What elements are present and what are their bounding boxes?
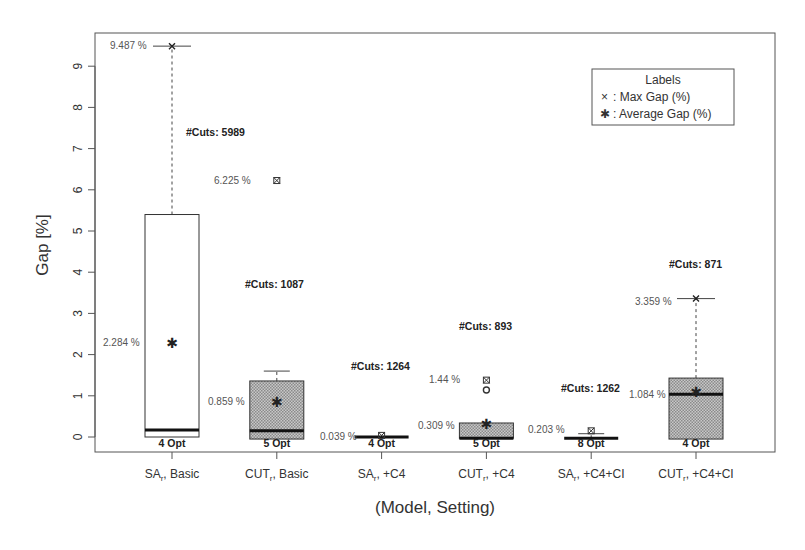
y-tick-label: 2 <box>71 351 85 358</box>
max-gap-label: 6.225 % <box>214 175 251 186</box>
average-gap-label: 0.859 % <box>208 396 245 407</box>
average-gap-icon: ✱ <box>481 416 493 432</box>
y-tick-label: 6 <box>71 186 85 193</box>
box-plot-chart: 0123456789 SAr, BasicCUTr, BasicSAr, +C4… <box>0 0 805 550</box>
average-gap-icon: ✱ <box>166 335 178 351</box>
box-2: ✱6.225 %0.859 %#Cuts: 10875 Opt <box>208 175 304 449</box>
box-5: 0.203 %#Cuts: 12628 Opt <box>528 382 620 449</box>
max-gap-icon <box>483 377 489 383</box>
optimal-count-label: 5 Opt <box>473 437 500 449</box>
x-tick-label: SAr, +C4 <box>358 467 406 483</box>
legend-max-gap-icon: × <box>601 90 608 104</box>
optimal-count-label: 5 Opt <box>263 437 290 449</box>
y-tick-label: 9 <box>71 63 85 70</box>
legend-title: Labels <box>645 73 680 87</box>
y-tick-label: 7 <box>71 145 85 152</box>
legend-max-gap-label: : Max Gap (%) <box>613 90 690 104</box>
x-tick-label: CUTr, +C4 <box>458 467 515 483</box>
average-gap-label: 2.284 % <box>103 337 140 348</box>
optimal-count-label: 4 Opt <box>159 437 186 449</box>
max-gap-label: 1.44 % <box>429 374 460 385</box>
y-axis: 0123456789 <box>71 63 95 441</box>
cuts-label: #Cuts: 871 <box>669 258 722 270</box>
outlier-icon <box>483 387 489 393</box>
cuts-label: #Cuts: 1087 <box>245 278 304 290</box>
cuts-label: #Cuts: 1264 <box>351 360 410 372</box>
average-gap-label: 1.084 % <box>629 389 666 400</box>
max-gap-label: 3.359 % <box>635 296 672 307</box>
cuts-label: #Cuts: 5989 <box>186 126 245 138</box>
legend-average-gap-label: : Average Gap (%) <box>613 107 712 121</box>
average-gap-label: 0.203 % <box>528 424 565 435</box>
x-tick-label: SAr, +C4+CI <box>558 467 625 483</box>
max-gap-icon <box>588 428 594 434</box>
y-tick-label: 8 <box>71 104 85 111</box>
y-tick-label: 5 <box>71 227 85 234</box>
y-tick-label: 3 <box>71 310 85 317</box>
box-4: ✱1.44 %0.309 %#Cuts: 8935 Opt <box>418 320 513 449</box>
x-tick-label: CUTr, +C4+CI <box>658 467 733 483</box>
max-gap-label: 9.487 % <box>110 40 147 51</box>
max-gap-icon <box>274 178 280 184</box>
y-axis-title: Gap [%] <box>33 214 52 275</box>
cuts-label: #Cuts: 1262 <box>561 382 620 394</box>
optimal-count-label: 4 Opt <box>368 437 395 449</box>
optimal-count-label: 8 Opt <box>578 437 605 449</box>
optimal-count-label: 4 Opt <box>683 437 710 449</box>
x-tick-label: SAr, Basic <box>145 467 200 483</box>
average-gap-label: 0.039 % <box>320 431 357 442</box>
y-tick-label: 4 <box>71 269 85 276</box>
x-axis: SAr, BasicCUTr, BasicSAr, +C4CUTr, +C4SA… <box>145 452 734 483</box>
average-gap-label: 0.309 % <box>418 420 455 431</box>
legend-average-gap-icon: ✱ <box>600 107 610 121</box>
legend: Labels × : Max Gap (%) ✱ : Average Gap (… <box>592 69 734 125</box>
cuts-label: #Cuts: 893 <box>459 320 512 332</box>
x-axis-title: (Model, Setting) <box>375 498 495 517</box>
x-tick-label: CUTr, Basic <box>245 467 308 483</box>
box-6: ✱3.359 %1.084 %#Cuts: 8714 Opt <box>629 258 723 449</box>
box-iqr <box>145 215 199 437</box>
y-tick-label: 0 <box>71 433 85 440</box>
average-gap-icon: ✱ <box>271 394 283 410</box>
average-gap-icon: ✱ <box>690 384 702 400</box>
box-1: ✱9.487 %2.284 %#Cuts: 59894 Opt <box>103 40 245 449</box>
box-3: 0.039 %#Cuts: 12644 Opt <box>320 360 410 449</box>
y-tick-label: 1 <box>71 392 85 399</box>
